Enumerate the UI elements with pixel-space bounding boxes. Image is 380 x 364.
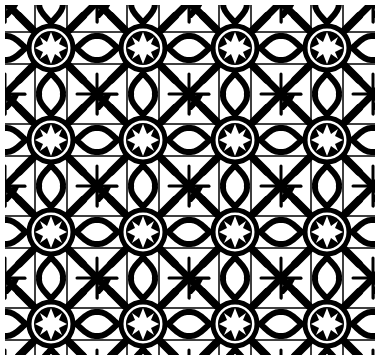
- pattern-area: [5, 5, 375, 355]
- ornamental-tile-pattern: [0, 0, 380, 364]
